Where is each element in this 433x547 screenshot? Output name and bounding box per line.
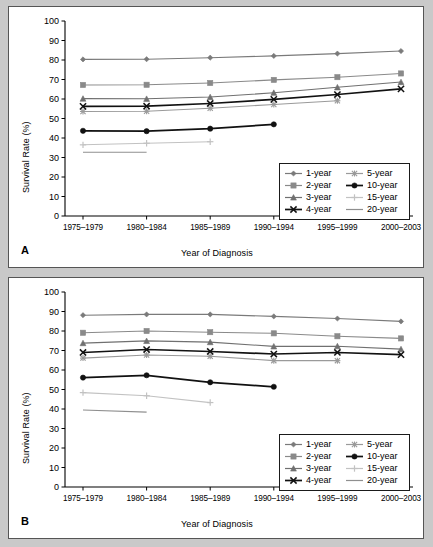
y-tick-label: 80: [49, 55, 59, 65]
figure-root: 01020304050607080901001975–19791980–1984…: [0, 0, 433, 547]
legend-marker-triangle-icon: [284, 463, 303, 474]
legend-marker-diamond-icon: [284, 168, 303, 179]
y-tick-label: 70: [49, 346, 59, 356]
legend-item-2-year: 2-year: [284, 450, 338, 462]
legend-marker-circle-icon: [345, 180, 364, 191]
legend-label: 10-year: [367, 180, 398, 191]
legend-marker-asterisk-icon: [345, 439, 364, 450]
y-tick-label: 40: [49, 404, 59, 414]
legend-label: 2-year: [306, 180, 332, 191]
legend-label: 5-year: [367, 439, 393, 450]
legend-marker-line-icon: [345, 475, 364, 486]
y-tick-label: 70: [49, 75, 59, 85]
legend-label: 3-year: [306, 463, 332, 474]
y-tick-label: 100: [44, 287, 59, 297]
legend-item-5-year: 5-year: [345, 438, 404, 450]
y-axis-title-b: Survival Rate (%): [21, 392, 31, 464]
legend-item-5-year: 5-year: [345, 167, 404, 179]
chart-panel-a: 01020304050607080901001975–19791980–1984…: [8, 6, 424, 268]
y-tick-label: 80: [49, 326, 59, 336]
y-tick-label: 60: [49, 94, 59, 104]
x-tick-label: 1995–1999: [317, 494, 358, 503]
y-tick-label: 50: [49, 385, 59, 395]
y-tick-label: 20: [49, 443, 59, 453]
legend-marker-square-icon: [284, 451, 303, 462]
plot-area-b: 01020304050607080901001975–19791980–1984…: [9, 278, 423, 538]
x-tick-label: 1990–1994: [254, 223, 295, 232]
series-2-year: [80, 71, 403, 88]
plot-area-a: 01020304050607080901001975–19791980–1984…: [9, 7, 423, 267]
legend-label: 20-year: [367, 475, 398, 486]
y-tick-label: 90: [49, 307, 59, 317]
x-tick-label: 1995–1999: [317, 223, 358, 232]
legend-marker-square-icon: [284, 180, 303, 191]
legend-marker-circle-icon: [345, 451, 364, 462]
panel-letter-b: B: [21, 515, 29, 527]
legend-marker-plus-icon: [345, 463, 364, 474]
x-tick-label: 1980–1984: [127, 223, 168, 232]
legend-a: 1-year5-year2-year10-year3-year15-year4-…: [279, 163, 410, 220]
legend-label: 15-year: [367, 192, 398, 203]
series-20-year: [83, 410, 147, 412]
legend-item-15-year: 15-year: [345, 462, 404, 474]
x-tick-label: 2000–2003: [381, 223, 422, 232]
legend-marker-asterisk-icon: [345, 168, 364, 179]
legend-label: 10-year: [367, 451, 398, 462]
y-tick-label: 60: [49, 365, 59, 375]
y-tick-label: 10: [49, 192, 59, 202]
legend-label: 4-year: [306, 475, 332, 486]
legend-marker-triangle-icon: [284, 192, 303, 203]
legend-item-1-year: 1-year: [284, 167, 338, 179]
chart-panel-b: 01020304050607080901001975–19791980–1984…: [8, 277, 424, 539]
legend-item-3-year: 3-year: [284, 462, 338, 474]
legend-marker-line-icon: [345, 204, 364, 215]
x-tick-label: 1975–1979: [63, 494, 104, 503]
legend-marker-diamond-icon: [284, 439, 303, 450]
legend-label: 20-year: [367, 204, 398, 215]
panel-letter-a: A: [21, 244, 29, 256]
series-2-year: [80, 328, 403, 341]
legend-marker-x-icon: [284, 475, 303, 486]
legend-marker-x-icon: [284, 204, 303, 215]
legend-label: 4-year: [306, 204, 332, 215]
y-tick-label: 10: [49, 463, 59, 473]
x-axis-title-a: Year of Diagnosis: [181, 248, 253, 258]
legend-item-10-year: 10-year: [345, 179, 404, 191]
legend-item-20-year: 20-year: [345, 203, 404, 215]
legend-label: 3-year: [306, 192, 332, 203]
legend-item-10-year: 10-year: [345, 450, 404, 462]
y-tick-label: 20: [49, 172, 59, 182]
series-15-year: [80, 389, 214, 405]
legend-marker-plus-icon: [345, 192, 364, 203]
series-1-year: [80, 312, 403, 324]
y-tick-label: 0: [54, 211, 59, 221]
x-axis-title-b: Year of Diagnosis: [181, 519, 253, 529]
legend-item-15-year: 15-year: [345, 191, 404, 203]
series-1-year: [80, 48, 403, 62]
x-tick-label: 2000–2003: [381, 494, 422, 503]
series-10-year: [80, 373, 276, 390]
legend-label: 15-year: [367, 463, 398, 474]
legend-item-4-year: 4-year: [284, 203, 338, 215]
y-tick-label: 90: [49, 36, 59, 46]
y-tick-label: 0: [54, 482, 59, 492]
series-10-year: [80, 122, 276, 134]
series-3-year: [80, 79, 404, 101]
legend-label: 2-year: [306, 451, 332, 462]
legend-label: 5-year: [367, 168, 393, 179]
y-tick-label: 50: [49, 114, 59, 124]
series-15-year: [80, 139, 214, 149]
y-axis-title-a: Survival Rate (%): [21, 121, 31, 193]
x-tick-label: 1990–1994: [254, 494, 295, 503]
x-tick-label: 1985–1989: [190, 494, 231, 503]
legend-item-3-year: 3-year: [284, 191, 338, 203]
legend-item-20-year: 20-year: [345, 474, 404, 486]
legend-b: 1-year5-year2-year10-year3-year15-year4-…: [279, 434, 410, 491]
legend-item-2-year: 2-year: [284, 179, 338, 191]
y-tick-label: 40: [49, 133, 59, 143]
legend-label: 1-year: [306, 168, 332, 179]
x-tick-label: 1980–1984: [127, 494, 168, 503]
legend-item-4-year: 4-year: [284, 474, 338, 486]
legend-item-1-year: 1-year: [284, 438, 338, 450]
x-tick-label: 1975–1979: [63, 223, 104, 232]
